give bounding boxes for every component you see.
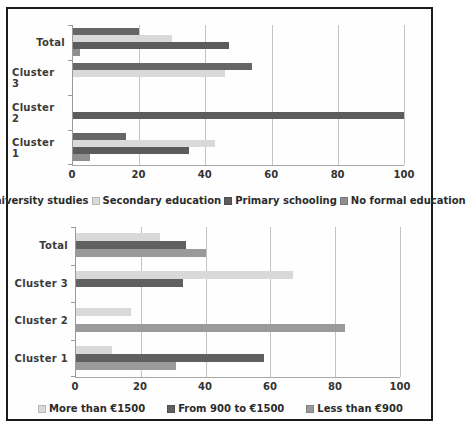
legend-label: University studies: [0, 195, 89, 206]
x-tick-label-60: 60: [264, 169, 278, 180]
legend: More than €1500From 900 to €1500Less tha…: [12, 403, 429, 414]
bar-slot: [73, 147, 404, 154]
legend-marker-icon: [224, 197, 232, 205]
legend-item-more-than-1500: More than €1500: [38, 403, 145, 414]
x-tick-label-60: 60: [263, 381, 277, 392]
x-axis: 020406080100: [72, 166, 404, 181]
legend-marker-icon: [38, 405, 46, 413]
legend-marker-icon: [167, 405, 175, 413]
legend-item-primary-schooling: Primary schooling: [224, 195, 337, 206]
bar-no-formal-education-cluster-1: [73, 154, 90, 161]
bar-secondary-education-cluster-1: [73, 140, 215, 147]
bar-slot: [73, 119, 404, 126]
x-tick-label-20: 20: [131, 169, 145, 180]
bar-university-studies-cluster-3: [73, 63, 252, 70]
bar-slot: [73, 42, 404, 49]
legend-item-university-studies: University studies: [0, 195, 89, 206]
bar-slot: [76, 362, 400, 370]
bar-slot: [73, 140, 404, 147]
legend-marker-icon: [92, 197, 100, 205]
bar-slot: [73, 154, 404, 161]
x-tick-label-80: 80: [328, 381, 342, 392]
category-label-total: Total: [12, 227, 75, 265]
bar-slot: [76, 354, 400, 362]
bar-group-cluster-3: [76, 265, 400, 303]
legend-label: Less than €900: [317, 403, 403, 414]
legend: University studiesSecondary educationPri…: [12, 195, 429, 206]
gridline-100: [404, 25, 405, 165]
bar-group-total: [73, 25, 404, 60]
bar-from-900-to-1500-cluster-3: [76, 279, 183, 287]
legend-label: No formal education: [351, 195, 466, 206]
category-label-cluster-2: Cluster 2: [12, 302, 75, 340]
y-axis-tick: [68, 164, 73, 165]
category-axis: TotalCluster 3Cluster 2Cluster 1: [12, 25, 72, 166]
income-bar-chart: TotalCluster 3Cluster 2Cluster 1 0204060…: [12, 213, 429, 419]
bar-secondary-education-cluster-3: [73, 70, 225, 77]
x-tick-label-0: 0: [69, 169, 76, 180]
bar-less-than-900-total: [76, 249, 206, 257]
bar-more-than-1500-cluster-1: [76, 346, 112, 354]
bar-primary-schooling-cluster-1: [73, 147, 189, 154]
x-tick-label-40: 40: [198, 381, 212, 392]
education-bar-chart: TotalCluster 3Cluster 2Cluster 1 0204060…: [12, 15, 429, 211]
bar-slot: [76, 324, 400, 332]
x-tick-label-100: 100: [390, 381, 411, 392]
category-label-cluster-2: Cluster 2: [12, 95, 72, 130]
x-tick-label-100: 100: [394, 169, 415, 180]
category-label-cluster-3: Cluster 3: [12, 265, 75, 303]
gridline-100: [400, 227, 401, 377]
legend-marker-icon: [340, 197, 348, 205]
bar-slot: [73, 98, 404, 105]
bar-slot: [73, 133, 404, 140]
plot-area: [72, 25, 404, 166]
plot-wrap: TotalCluster 3Cluster 2Cluster 1: [12, 25, 429, 166]
x-tick-label-20: 20: [133, 381, 147, 392]
bar-slot: [76, 249, 400, 257]
bar-university-studies-cluster-1: [73, 133, 126, 140]
legend-label: Primary schooling: [235, 195, 337, 206]
bar-slot: [73, 63, 404, 70]
category-label-cluster-1: Cluster 1: [12, 130, 72, 165]
bar-secondary-education-total: [73, 35, 172, 42]
bar-slot: [73, 112, 404, 119]
bar-slot: [73, 77, 404, 84]
bar-slot: [76, 316, 400, 324]
bar-slot: [76, 279, 400, 287]
bar-slot: [76, 233, 400, 241]
bar-primary-schooling-cluster-2: [73, 112, 404, 119]
legend-item-secondary-education: Secondary education: [92, 195, 222, 206]
bar-slot: [73, 84, 404, 91]
bar-from-900-to-1500-total: [76, 241, 186, 249]
bar-less-than-900-cluster-1: [76, 362, 176, 370]
legend-label: Secondary education: [103, 195, 222, 206]
x-axis: 020406080100: [75, 378, 400, 393]
x-tick-label-40: 40: [198, 169, 212, 180]
bar-slot: [73, 70, 404, 77]
bar-group-cluster-3: [73, 60, 404, 95]
bar-slot: [73, 49, 404, 56]
bar-more-than-1500-cluster-3: [76, 271, 293, 279]
plot-area: [75, 227, 400, 378]
legend-item-from-900-to-1500: From 900 to €1500: [167, 403, 284, 414]
y-axis-tick: [71, 376, 76, 377]
bar-slot: [73, 28, 404, 35]
legend-item-no-formal-education: No formal education: [340, 195, 466, 206]
category-label-cluster-3: Cluster 3: [12, 60, 72, 95]
bar-slot: [76, 241, 400, 249]
bar-group-total: [76, 227, 400, 265]
bar-slot: [73, 35, 404, 42]
bar-group-cluster-2: [73, 95, 404, 130]
bar-slot: [76, 271, 400, 279]
bar-slot: [76, 308, 400, 316]
category-label-cluster-1: Cluster 1: [12, 340, 75, 378]
plot-wrap: TotalCluster 3Cluster 2Cluster 1: [12, 227, 429, 378]
legend-marker-icon: [306, 405, 314, 413]
figure-frame: TotalCluster 3Cluster 2Cluster 1 0204060…: [6, 7, 433, 421]
bar-from-900-to-1500-cluster-1: [76, 354, 264, 362]
bar-group-cluster-2: [76, 302, 400, 340]
bar-more-than-1500-cluster-2: [76, 308, 131, 316]
x-tick-label-0: 0: [72, 381, 79, 392]
category-axis: TotalCluster 3Cluster 2Cluster 1: [12, 227, 75, 378]
bar-slot: [76, 346, 400, 354]
